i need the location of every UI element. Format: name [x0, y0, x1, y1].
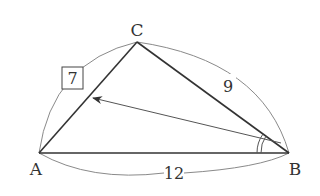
arc-side-ab-right — [184, 153, 289, 173]
side-bc-label: 9 — [223, 77, 233, 96]
vertex-label-b: B — [289, 159, 302, 179]
edge-ca — [39, 42, 137, 153]
arrow-b-to-ac — [93, 98, 281, 143]
vertex-label-c: C — [130, 20, 143, 40]
side-ca-label: 7 — [67, 69, 77, 88]
triangle-diagram: 7 9 12 C A B — [0, 0, 320, 196]
arc-side-ab — [39, 153, 164, 175]
vertex-label-a: A — [29, 159, 43, 179]
side-ab-label: 12 — [164, 164, 184, 183]
